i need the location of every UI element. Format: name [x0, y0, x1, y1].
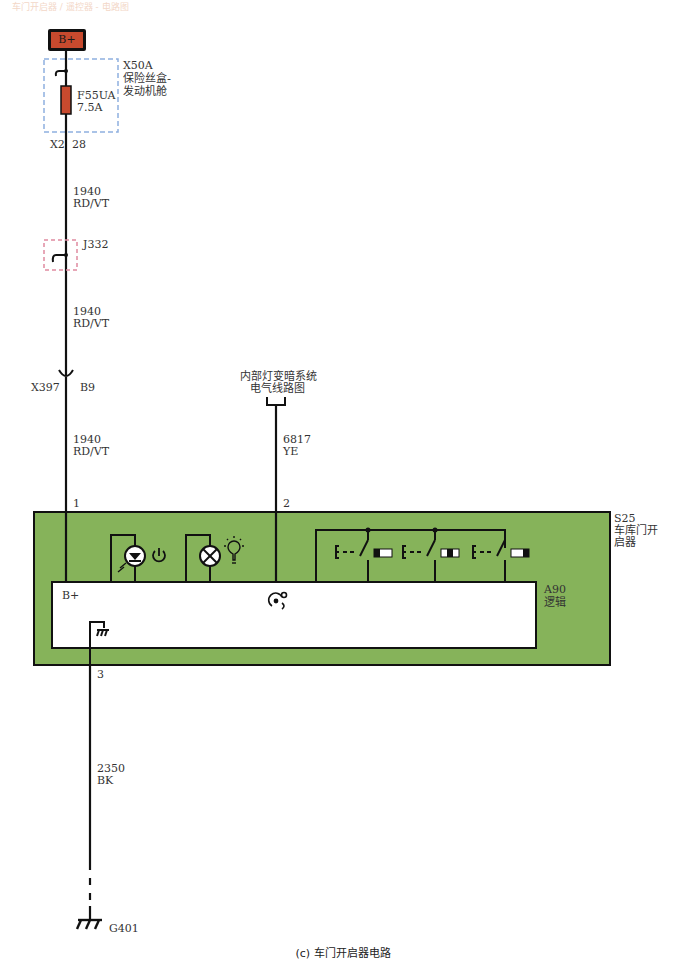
wire-color-2350: BK	[97, 774, 113, 787]
inline-connector-pin: B9	[80, 381, 95, 394]
reference-connector-icon	[267, 397, 285, 405]
fuse-rating: 7.5A	[77, 101, 102, 114]
module-pin-3: 3	[97, 668, 104, 681]
fuse-icon	[61, 86, 71, 114]
logic-name: 逻辑	[544, 596, 566, 609]
fuse-connector-id: X2	[50, 138, 65, 151]
logic-a90-box	[52, 582, 536, 648]
inline-connector-id: X397	[31, 381, 60, 394]
fuse-box-name-2: 发动机舱	[123, 85, 167, 98]
reference-line-2[interactable]: 电气线路图	[250, 382, 305, 395]
logic-id: A90	[544, 583, 566, 596]
splice-id: J332	[83, 238, 108, 251]
module-pin-1: 1	[73, 497, 80, 510]
wire-color-6817: YE	[283, 445, 298, 458]
module-name-2: 启器	[614, 536, 636, 549]
ground-id: G401	[109, 922, 139, 935]
fuse-box-id: X50A	[123, 59, 153, 72]
module-pin-2: 2	[283, 497, 290, 510]
wire-color-1: RD/VT	[73, 197, 109, 210]
wire-color-3: RD/VT	[73, 445, 109, 458]
figure-caption: (c) 车门开启器电路	[0, 944, 686, 960]
splice-connector-icon	[53, 255, 66, 262]
battery-positive-box: B+	[48, 29, 86, 51]
fuse-box-name-1: 保险丝盒-	[123, 72, 171, 85]
ground-g401-icon	[77, 920, 102, 929]
fuse-pin: 28	[72, 138, 86, 151]
logic-bplus-label: B+	[62, 589, 79, 602]
wire-color-2: RD/VT	[73, 317, 109, 330]
wiring-diagram	[0, 0, 686, 963]
